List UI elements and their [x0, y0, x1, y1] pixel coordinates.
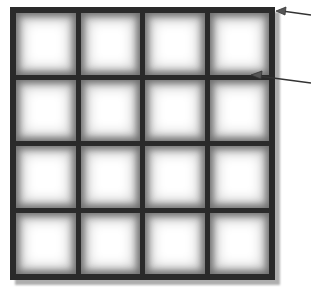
annotation-arrows: [0, 0, 311, 289]
arrow-inner-gridline-icon: [251, 71, 311, 83]
arrow-outer-frame-icon: [276, 7, 311, 15]
